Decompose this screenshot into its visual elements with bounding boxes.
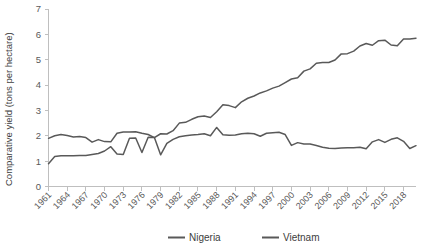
x-tick-label: 1961: [32, 190, 53, 211]
y-tick-label: 0: [36, 181, 41, 192]
series-line-nigeria: [49, 127, 417, 163]
x-tick-label: 1988: [200, 190, 221, 211]
x-tick-label: 1985: [182, 190, 203, 211]
legend-label-nigeria: Nigeria: [189, 232, 221, 243]
x-tick-label: 1997: [256, 190, 277, 211]
x-tick-label: 1964: [51, 190, 72, 211]
x-tick-label: 2006: [312, 190, 333, 211]
x-tick-label: 2009: [331, 190, 352, 211]
line-chart: Comparative yield (tons per hectare) 012…: [0, 0, 424, 252]
x-tick-label: 1970: [88, 190, 109, 211]
x-axis-ticks: 1961196419671970197319761979198219851988…: [32, 187, 408, 212]
x-tick-label: 2003: [294, 190, 315, 211]
y-tick-label: 3: [36, 105, 41, 116]
x-tick-label: 1979: [144, 190, 165, 211]
x-tick-label: 2015: [369, 190, 390, 211]
y-tick-label: 6: [36, 29, 41, 40]
y-axis-title: Comparative yield (tons per hectare): [3, 32, 14, 186]
chart-canvas: Comparative yield (tons per hectare) 012…: [0, 0, 424, 252]
x-tick-label: 1991: [219, 190, 240, 211]
x-tick-label: 1967: [70, 190, 91, 211]
y-tick-label: 4: [36, 79, 41, 90]
chart-legend: NigeriaVietnam: [168, 232, 320, 243]
x-tick-label: 2012: [350, 190, 371, 211]
y-axis-ticks: 01234567: [36, 3, 49, 192]
x-tick-label: 2000: [275, 190, 296, 211]
y-tick-label: 7: [36, 3, 41, 14]
y-tick-label: 5: [36, 54, 41, 65]
series-line-vietnam: [49, 38, 417, 142]
x-tick-label: 1994: [238, 190, 259, 211]
x-tick-label: 1976: [126, 190, 147, 211]
legend-label-vietnam: Vietnam: [283, 232, 320, 243]
y-tick-label: 2: [36, 130, 41, 141]
y-tick-label: 1: [36, 156, 41, 167]
x-tick-label: 2018: [387, 190, 408, 211]
series-lines: [49, 38, 417, 164]
x-tick-label: 1982: [163, 190, 184, 211]
x-tick-label: 1973: [107, 190, 128, 211]
